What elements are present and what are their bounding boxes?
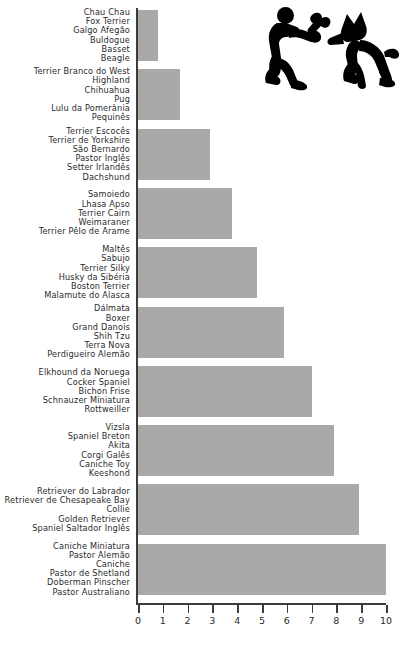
bar [138,425,334,476]
x-tick-mark [312,605,314,613]
bar [138,10,158,61]
x-tick-label: 8 [326,615,346,626]
bar-row: SamoiedoLhasa ApsoTerrier CairnWeimarane… [0,188,400,239]
bar [138,484,359,535]
bar-row-labels: MaltêsSabujoTerrier SilkyHusky da Sibéri… [0,245,130,300]
bar [138,188,232,239]
x-tick-mark [212,605,214,613]
bar-row: Chau ChauFox TerrierGalgo AfegãoBuldogue… [0,10,400,61]
bar-row: MaltêsSabujoTerrier SilkyHusky da Sibéri… [0,247,400,298]
breed-label: Chihuahua [0,86,130,95]
x-tick-mark [138,605,140,613]
bar [138,544,386,595]
bar [138,69,180,120]
x-tick-label: 10 [376,615,396,626]
bar [138,129,210,180]
bar-row-labels: Terrier EscocêsTerrier de YorkshireSão B… [0,127,130,182]
bar-row: Terrier EscocêsTerrier de YorkshireSão B… [0,129,400,180]
x-tick-mark [262,605,264,613]
bar-row-labels: Caniche MiniaturaPastor AlemãoCanichePas… [0,542,130,597]
breed-label: Pastor Australiano [0,588,130,597]
x-axis-ticks: 012345678910 [0,605,400,645]
x-tick-label: 1 [153,615,173,626]
x-tick-mark [163,605,165,613]
bar [138,307,284,358]
bar-row-labels: Elkhound da NoruegaCocker SpanielBichon … [0,368,130,414]
x-tick-mark [361,605,363,613]
bar-row: Retriever do LabradorRetriever de Chesap… [0,484,400,535]
plot-area: Chau ChauFox TerrierGalgo AfegãoBuldogue… [0,0,400,610]
x-tick-label: 2 [178,615,198,626]
bar-row-labels: VizslaSpaniel BretonAkitaCorgi GalêsCani… [0,423,130,478]
breed-label: Beagle [0,54,130,63]
x-tick-label: 4 [227,615,247,626]
breed-label: Rottweiller [0,405,130,414]
breed-label: Spaniel Saltador Inglês [0,524,130,533]
breed-label: Dachshund [0,173,130,182]
horizontal-bar-chart: Chau ChauFox TerrierGalgo AfegãoBuldogue… [0,0,400,649]
breed-label: Malamute do Alasca [0,291,130,300]
x-tick-mark [237,605,239,613]
bar-row: Elkhound da NoruegaCocker SpanielBichon … [0,366,400,417]
x-tick-label: 9 [351,615,371,626]
breed-label: Keeshond [0,469,130,478]
x-tick-mark [287,605,289,613]
x-tick-mark [188,605,190,613]
breed-label: Perdigueiro Alemão [0,350,130,359]
bar-row: DálmataBoxerGrand DanoisShih TzuTerra No… [0,307,400,358]
bar [138,247,257,298]
bar-row-labels: Retriever do LabradorRetriever de Chesap… [0,487,130,533]
x-tick-mark [336,605,338,613]
bar-row: VizslaSpaniel BretonAkitaCorgi GalêsCani… [0,425,400,476]
x-tick-label: 0 [128,615,148,626]
bar [138,366,312,417]
breed-label: Pequinês [0,113,130,122]
breed-label: Terrier Pêlo de Arame [0,227,130,236]
bar-row: Caniche MiniaturaPastor AlemãoCanichePas… [0,544,400,595]
bar-row: Terrier Branco do WestHighlandChihuahuaP… [0,69,400,120]
x-tick-label: 3 [202,615,222,626]
bar-row-labels: Terrier Branco do WestHighlandChihuahuaP… [0,67,130,122]
x-tick-mark [386,605,388,613]
bar-row-labels: DálmataBoxerGrand DanoisShih TzuTerra No… [0,304,130,359]
x-tick-label: 5 [252,615,272,626]
x-tick-label: 7 [302,615,322,626]
bar-row-labels: SamoiedoLhasa ApsoTerrier CairnWeimarane… [0,190,130,236]
bar-row-labels: Chau ChauFox TerrierGalgo AfegãoBuldogue… [0,8,130,63]
x-tick-label: 6 [277,615,297,626]
